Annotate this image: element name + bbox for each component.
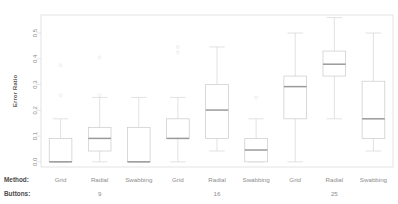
outlier-point [98,56,101,59]
boxplot-grid-16 [167,45,190,161]
y-axis-title: Error Ratio [11,75,18,108]
method-label-1: Radial [91,176,109,183]
y-axis-tick-label: 0.4 [32,54,38,63]
outlier-point [98,94,101,97]
buttons-strip-header: Buttons: [4,190,30,197]
y-axis-tick-label: 0.0 [32,157,38,166]
box-iqr [167,119,190,139]
outlier-point [255,96,258,99]
y-axis-tick-label: 0.2 [32,105,38,114]
box-iqr [206,85,229,139]
method-label-2: Swabbing [125,176,153,183]
method-label-7: Radial [326,176,344,183]
box-iqr [88,127,111,151]
boxplot-radial-25 [323,18,346,119]
outlier-point [176,45,179,48]
outlier-point [59,64,62,67]
y-axis-tick-label: 0.3 [32,80,38,89]
y-axis-tick-label: 0.5 [32,28,38,37]
box-iqr [127,127,150,162]
boxplot-swabbing-25 [362,33,385,151]
box-iqr [49,138,72,161]
boxplot-grid-9 [49,64,72,162]
boxplot-grid-25 [284,33,307,162]
box-iqr [362,81,385,138]
method-label-3: Grid [172,176,184,183]
method-label-4: Radial [208,176,226,183]
method-label-5: Swabbing [243,176,271,183]
outlier-point [176,51,179,54]
boxplot-swabbing-16 [245,96,268,162]
box-iqr [284,76,307,119]
buttons-label-1: 16 [214,190,221,197]
method-label-0: Grid [55,176,67,183]
boxplot-swabbing-9 [127,97,150,161]
chart-canvas: 0.00.10.20.30.40.5Error RatioMethod:Butt… [0,0,398,204]
method-label-8: Swabbing [360,176,388,183]
method-strip-header: Method: [4,176,29,183]
method-label-6: Grid [289,176,301,183]
boxplot-radial-9 [88,56,111,162]
boxplot-chart: 0.00.10.20.30.40.5Error RatioMethod:Butt… [0,0,398,204]
y-axis-tick-label: 0.1 [32,131,38,140]
outlier-point [59,94,62,97]
buttons-label-0: 9 [98,190,102,197]
boxplot-radial-16 [206,47,229,151]
buttons-label-2: 25 [331,190,338,197]
